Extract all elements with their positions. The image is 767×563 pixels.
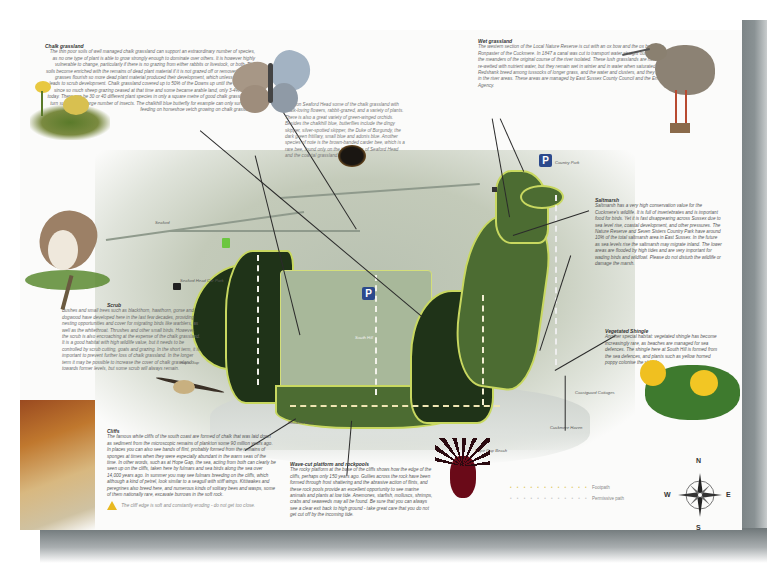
meander-area xyxy=(520,185,564,209)
chalkhill-blue-butterfly-photo xyxy=(230,30,315,120)
label-seaford: Seaford xyxy=(155,220,170,225)
compass-north: N xyxy=(696,457,701,464)
footpath xyxy=(257,255,259,385)
legend-permissive-path: • • • • • • • • • • • • Permissive path xyxy=(510,496,624,501)
golf-icon xyxy=(222,238,230,248)
section-body: The famous white cliffs of the south coa… xyxy=(107,434,277,498)
compass-south: S xyxy=(696,524,701,530)
label-coastguard: Coastguard Cottages xyxy=(575,390,615,395)
redshank-photo xyxy=(620,35,735,135)
label-car-park-west: Seaford Head Car Park xyxy=(180,278,224,283)
section-scrub: Scrub Bushes and small trees such as bla… xyxy=(62,302,202,372)
cliff-photo xyxy=(20,400,95,530)
warning-triangle-icon xyxy=(107,501,117,510)
fulmar-bird-photo xyxy=(155,375,225,405)
compass-icon xyxy=(670,465,730,525)
poster-shadow-bottom xyxy=(40,528,767,563)
chalk-flower-photo xyxy=(25,75,110,140)
yellow-horned-poppy-photo xyxy=(635,350,740,430)
section-wave-cut-platform: Wave-cut platform and rockpools The rock… xyxy=(290,461,435,519)
cliff-warning: The cliff edge is soft and constantly er… xyxy=(107,501,277,510)
road xyxy=(170,230,360,232)
parking-icon: P xyxy=(362,287,375,300)
section-body: The rocky platform at the base of the cl… xyxy=(290,467,435,518)
label-cuckmere-haven: Cuckmere Haven xyxy=(550,425,582,430)
compass-west: W xyxy=(664,491,671,498)
poster-shadow-right xyxy=(742,20,767,563)
whitethroat-bird-photo xyxy=(20,195,115,310)
nature-reserve-poster: P P Seaford Seaford Head Car Park South … xyxy=(20,30,742,530)
parking-icon: P xyxy=(539,154,552,167)
label-country-park: Country Park xyxy=(555,160,579,165)
label-south-hill: South Hill xyxy=(355,335,373,340)
permissive-path-swatch: • • • • • • • • • • • • xyxy=(510,496,592,501)
beadlet-anemone-photo xyxy=(435,438,490,508)
section-saltmarsh: Saltmarsh Saltmarsh has a very high cons… xyxy=(595,197,723,267)
leader-line xyxy=(564,376,565,431)
footpath-swatch: • • • • • • • • • • • • xyxy=(510,485,592,490)
bumblebee-photo xyxy=(338,145,366,167)
footpath xyxy=(375,275,377,395)
section-body: Bushes and small trees such as blackthor… xyxy=(62,308,202,372)
legend-footpath: • • • • • • • • • • • • Footpath xyxy=(510,485,610,490)
compass-east: E xyxy=(726,491,731,498)
section-body: Saltmarsh has a very high conservation v… xyxy=(595,203,723,267)
section-cliffs: Cliffs The famous white cliffs of the so… xyxy=(107,428,277,510)
compass-rose: N S E W xyxy=(670,465,730,525)
barn-icon xyxy=(492,187,497,192)
footpath xyxy=(482,295,484,405)
building-icon xyxy=(173,283,181,290)
coast-path xyxy=(290,405,500,407)
